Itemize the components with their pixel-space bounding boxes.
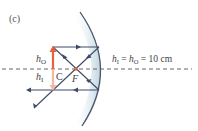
arrowhead-icon — [73, 88, 78, 93]
arrowhead-icon — [62, 54, 68, 59]
arrowhead-icon — [26, 88, 31, 93]
center-label: C — [56, 71, 63, 82]
concave-mirror-ray-diagram: (c) hO hI C F hI = hO — [0, 0, 198, 131]
arrowhead-icon — [76, 45, 81, 50]
image-height-label: hI — [36, 71, 44, 84]
object-height-label: hO — [36, 53, 46, 66]
height-equation: hI = hO = 10 cm — [112, 54, 173, 65]
focus-point — [74, 67, 78, 71]
focus-label: F — [71, 73, 79, 84]
panel-label: (c) — [9, 13, 20, 25]
